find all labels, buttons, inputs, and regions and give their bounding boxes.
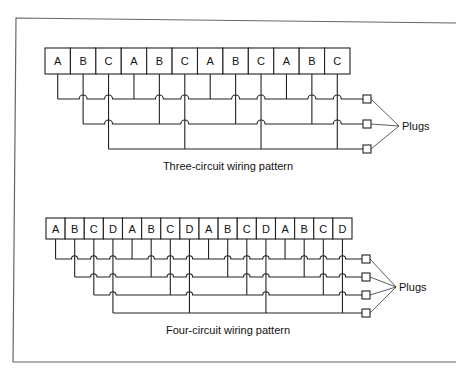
plug-leader-line	[370, 259, 396, 287]
outlet-label: A	[128, 223, 136, 235]
four-circuit-diagram: ABCDABCDABCDABCDPlugsFour-circuit wiring…	[46, 218, 427, 336]
plug-icon	[362, 273, 370, 281]
circuit-wire-C	[94, 292, 362, 295]
diagram-caption: Three-circuit wiring pattern	[163, 160, 293, 172]
outlet-label: D	[185, 223, 193, 235]
outlet-label: C	[257, 55, 265, 67]
outlet-label: A	[205, 223, 213, 235]
plug-leader-line	[371, 124, 399, 126]
plug-leader-line	[371, 126, 399, 149]
outlet-label: A	[130, 55, 138, 67]
outlet-label: C	[333, 55, 341, 67]
outlet-label: B	[148, 223, 155, 235]
plug-icon	[362, 291, 370, 299]
circuit-wire-B	[75, 274, 362, 277]
outlet-label: A	[281, 223, 289, 235]
outlet-label: B	[156, 55, 163, 67]
outlet-label: C	[243, 223, 251, 235]
plug-icon	[363, 145, 371, 153]
outlet-label: D	[262, 223, 270, 235]
outlet-label: A	[283, 55, 291, 67]
plug-leader-line	[370, 277, 396, 287]
outlet-label: B	[308, 55, 315, 67]
plug-icon	[363, 120, 371, 128]
outlet-label: C	[105, 55, 113, 67]
plug-icon	[363, 95, 371, 103]
outlet-label: B	[301, 223, 308, 235]
outlet-label: C	[166, 223, 174, 235]
outlet-label: C	[181, 55, 189, 67]
outlet-label: D	[338, 223, 346, 235]
outlet-label: A	[207, 55, 215, 67]
circuit-wire-B	[83, 120, 363, 124]
outlet-label: C	[319, 223, 327, 235]
outlet-label: D	[109, 223, 117, 235]
diagram-caption: Four-circuit wiring pattern	[166, 324, 290, 336]
outlet-label: A	[54, 55, 62, 67]
plugs-label: Plugs	[399, 281, 427, 293]
plugs-label: Plugs	[402, 120, 430, 132]
three-circuit-diagram: ABCABCABCABCPlugsThree-circuit wiring pa…	[45, 48, 430, 172]
outlet-label: B	[71, 223, 78, 235]
outlet-label: A	[52, 223, 60, 235]
outlet-label: B	[224, 223, 231, 235]
plug-icon	[362, 309, 370, 317]
plug-icon	[362, 255, 370, 263]
plug-leader-line	[371, 99, 399, 126]
outlet-label: B	[79, 55, 86, 67]
outlet-label: C	[90, 223, 98, 235]
wiring-diagram-canvas: ABCABCABCABCPlugsThree-circuit wiring pa…	[0, 0, 456, 370]
outlet-label: B	[232, 55, 239, 67]
